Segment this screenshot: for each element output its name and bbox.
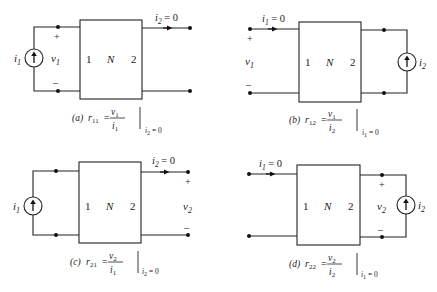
voltage-label: v1 (245, 55, 254, 70)
fraction-denominator: i2 (329, 123, 336, 135)
source-label: i2 (419, 56, 426, 71)
output-wires (141, 172, 188, 235)
terminal-node (188, 89, 192, 93)
terminal-node (186, 233, 190, 237)
caption-tag: (a) (72, 113, 83, 124)
condition: i1 = 0 (361, 270, 378, 280)
terminal-node (54, 233, 58, 237)
equals-sign: = (102, 256, 108, 267)
terminal-node (382, 91, 386, 95)
plus-sign: + (185, 176, 191, 187)
terminal-node (382, 28, 386, 32)
fraction-numerator: v2 (109, 251, 117, 263)
terminal-node (380, 235, 384, 239)
fraction-denominator: i1 (110, 265, 117, 277)
source-label: i1 (14, 52, 21, 67)
two-port-resistance-parameter-figure: i1 + – v1 1 N 2 i2 = 0 (a) r11 = v1 i1 i… (0, 0, 437, 292)
current-label: i1 = 0 (259, 158, 282, 172)
fraction-numerator: v1 (111, 107, 119, 119)
network-label: N (325, 56, 334, 68)
caption: (c) r21 = v2 i1 i2 = 0 (70, 251, 159, 277)
caption: (a) r11 = v1 i1 i2 = 0 (72, 107, 162, 136)
caption-tag: (d) (289, 259, 300, 270)
port1-label: 1 (85, 200, 91, 212)
current-label: i2 = 0 (155, 12, 178, 26)
current-label: i2 = 0 (152, 155, 175, 169)
terminal-node (188, 26, 192, 30)
input-wires (249, 174, 297, 236)
terminal-node (247, 172, 251, 176)
port2-label: 2 (348, 200, 354, 212)
fraction-numerator: v2 (328, 253, 336, 265)
equals-sign: = (104, 112, 110, 123)
current-label: i1 = 0 (262, 13, 285, 27)
terminal-node (248, 91, 252, 95)
terminal-node (54, 169, 58, 173)
panel-c: i1 + – v2 1 N 2 i2 = 0 (c) r21 = v2 i1 i… (13, 155, 192, 277)
terminal-node (247, 234, 251, 238)
port1-label: 1 (86, 53, 92, 65)
fraction-numerator: v1 (328, 109, 336, 121)
source-label: i1 (13, 200, 20, 215)
plus-sign: + (54, 31, 60, 42)
minus-sign: – (52, 77, 59, 88)
voltage-label: v2 (377, 200, 386, 215)
port1-label: 1 (303, 200, 309, 212)
param-symbol: r22 (305, 258, 316, 271)
caption: (b) r12 = v1 i2 i1 = 0 (289, 109, 379, 138)
param-symbol: r11 (88, 112, 99, 125)
caption-tag: (c) (70, 257, 81, 268)
terminal-node (248, 27, 252, 31)
panel-a: i1 + – v1 1 N 2 i2 = 0 (a) r11 = v1 i1 i… (14, 12, 192, 136)
panel-b: i2 + – v1 1 N 2 i1 = 0 (b) r12 = v1 i2 i… (245, 13, 426, 138)
equals-sign: = (321, 114, 327, 125)
fraction-denominator: i1 (112, 121, 119, 133)
terminal-node (56, 25, 60, 29)
condition: i2 = 0 (145, 126, 162, 136)
panel-d: i2 + – v2 1 N 2 i1 = 0 (d) r22 = v2 i2 i… (247, 158, 425, 280)
terminal-node (56, 89, 60, 93)
voltage-label: v1 (51, 52, 60, 67)
plus-sign: + (379, 179, 385, 190)
condition: i1 = 0 (362, 128, 379, 138)
network-label: N (105, 200, 114, 212)
condition: i2 = 0 (142, 267, 159, 277)
param-symbol: r12 (305, 114, 316, 127)
source-label: i2 (418, 199, 425, 214)
input-wires (250, 29, 299, 93)
caption: (d) r22 = v2 i2 i1 = 0 (289, 253, 378, 280)
plus-sign: + (247, 33, 253, 44)
fraction-denominator: i2 (329, 267, 336, 279)
output-wires (142, 28, 190, 91)
caption-tag: (b) (289, 115, 300, 126)
minus-sign: – (377, 224, 384, 235)
equals-sign: = (321, 258, 327, 269)
terminal-node (186, 170, 190, 174)
minus-sign: – (183, 222, 190, 233)
param-symbol: r21 (86, 256, 97, 269)
network-label: N (106, 53, 115, 65)
terminal-node (380, 173, 384, 177)
voltage-label: v2 (183, 200, 192, 215)
network-label: N (323, 200, 332, 212)
port2-label: 2 (131, 53, 137, 65)
port1-label: 1 (305, 56, 311, 68)
minus-sign: – (245, 79, 252, 90)
port2-label: 2 (130, 200, 136, 212)
port2-label: 2 (350, 56, 356, 68)
